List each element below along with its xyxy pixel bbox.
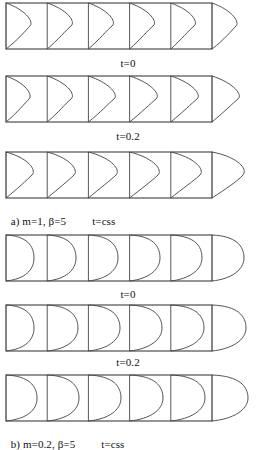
group-b-label: b) m=0.2, β=5 (11, 438, 76, 450)
time-label-a-css: t=css (92, 215, 115, 227)
duct-svg-a-tcss (0, 149, 256, 205)
group-caption-a: a) m=1, β=5t=css (5, 203, 115, 227)
duct-outline (6, 152, 212, 198)
velocity-profiles (6, 76, 239, 122)
time-label-a-t0: t=0 (0, 57, 256, 69)
duct-panel-a-tcss (0, 149, 256, 205)
duct-svg-b-t0 (0, 232, 256, 288)
time-label-b-css: t=css (101, 438, 124, 450)
duct-panel-a-t02 (0, 73, 256, 129)
time-label-a-t02: t=0.2 (0, 130, 256, 142)
time-label-b-t0: t=0 (0, 288, 256, 300)
duct-panel-a-t0 (0, 0, 256, 56)
velocity-profiles (6, 235, 244, 281)
duct-panel-b-t02 (0, 302, 256, 358)
duct-outline (6, 3, 212, 49)
duct-svg-b-t02 (0, 302, 256, 358)
time-label-b-t02: t=0.2 (0, 356, 256, 368)
group-caption-b: b) m=0.2, β=5t=css (5, 426, 124, 450)
duct-outline (6, 305, 212, 351)
duct-panel-b-tcss (0, 372, 256, 428)
duct-panel-b-t0 (0, 232, 256, 288)
velocity-profiles (6, 305, 246, 351)
group-a-label: a) m=1, β=5 (11, 215, 66, 227)
duct-svg-a-t02 (0, 73, 256, 129)
velocity-profiles (6, 152, 244, 198)
duct-outline (6, 76, 212, 122)
velocity-profiles (6, 3, 237, 49)
duct-svg-a-t0 (0, 0, 256, 56)
duct-svg-b-tcss (0, 372, 256, 428)
